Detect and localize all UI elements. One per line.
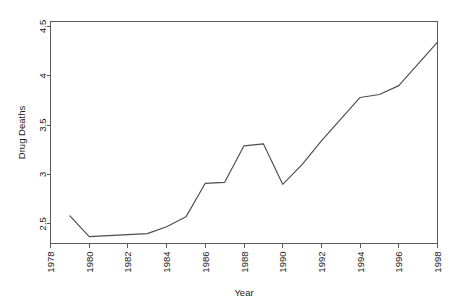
- drug-deaths-line-chart: 2.533.544.5 1978198019821984198619881990…: [0, 0, 453, 307]
- x-tick-label-1990: 1990: [277, 252, 288, 273]
- x-tick-label-1994: 1994: [355, 252, 366, 273]
- y-tick-label-2.5: 2.5: [37, 217, 48, 230]
- chart-figure: 2.533.544.5 1978198019821984198619881990…: [0, 0, 453, 307]
- plot-frame: [51, 22, 438, 244]
- x-axis-ticks: [51, 244, 438, 248]
- x-tick-label-1982: 1982: [122, 252, 133, 273]
- x-tick-label-1984: 1984: [161, 252, 172, 273]
- x-tick-label-1998: 1998: [432, 252, 443, 273]
- x-tick-label-1996: 1996: [393, 252, 404, 273]
- series-drug-deaths: [70, 42, 438, 236]
- x-tick-label-1980: 1980: [84, 252, 95, 273]
- y-tick-label-3.5: 3.5: [37, 118, 48, 131]
- x-axis-tick-labels: 1978198019821984198619881990199219941996…: [45, 252, 443, 273]
- y-axis-tick-labels: 2.533.544.5: [37, 20, 48, 231]
- x-tick-label-1992: 1992: [316, 252, 327, 273]
- x-axis-title: Year: [234, 287, 253, 298]
- y-tick-label-3: 3: [37, 172, 48, 177]
- data-series-group: [70, 42, 438, 236]
- x-tick-label-1978: 1978: [45, 252, 56, 273]
- x-tick-label-1986: 1986: [200, 252, 211, 273]
- x-tick-label-1988: 1988: [239, 252, 250, 273]
- y-tick-label-4.5: 4.5: [37, 20, 48, 33]
- y-tick-label-4: 4: [37, 73, 48, 78]
- y-axis-title: Drug Deaths: [16, 106, 27, 160]
